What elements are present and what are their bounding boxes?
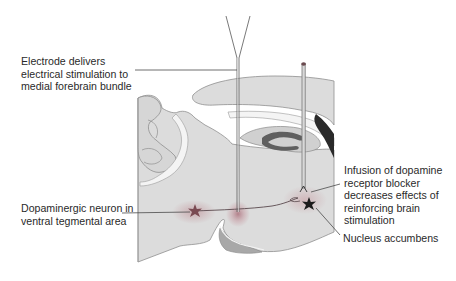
dopaminergic-neuron-label: Dopaminergic neuron in ventral tegmental… xyxy=(21,202,133,227)
mfb-stimulation-halo xyxy=(226,201,250,227)
electrode-label: Electrode delivers electrical stimulatio… xyxy=(21,55,132,93)
infusion-label: Infusion of dopamine receptor blocker de… xyxy=(344,164,442,227)
nucleus-accumbens-label: Nucleus accumbens xyxy=(343,232,438,245)
